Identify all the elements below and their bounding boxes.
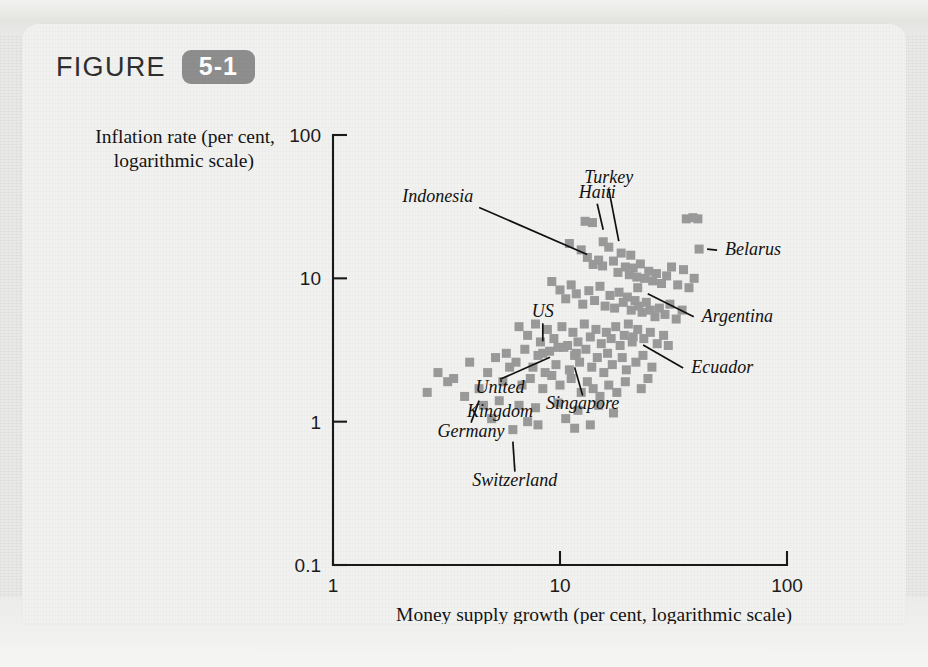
data-point [601, 302, 610, 311]
data-point [515, 322, 524, 331]
data-point [465, 358, 474, 367]
data-point [565, 365, 574, 374]
data-point [621, 377, 630, 386]
data-point [597, 339, 606, 348]
country-label-germany: Germany [438, 421, 505, 441]
data-point [646, 328, 655, 337]
scatter-plot: 1001010.1110100 IndonesiaHaitiTurkeyBela… [22, 24, 906, 624]
data-point [615, 288, 624, 297]
data-point [633, 325, 642, 334]
data-point [595, 282, 604, 291]
data-point [575, 358, 584, 367]
data-point [660, 310, 669, 319]
data-point [621, 262, 630, 271]
leader-line-switzerland [513, 442, 515, 472]
data-point [567, 280, 576, 289]
data-point [567, 374, 576, 383]
data-point [593, 353, 602, 362]
figure-panel: FIGURE 5-1 1001010.1110100 IndonesiaHait… [22, 24, 906, 624]
data-point [664, 341, 673, 350]
leader-line-indonesia [479, 207, 587, 254]
data-point [502, 349, 511, 358]
data-point [652, 269, 661, 278]
data-point [637, 384, 646, 393]
x-tick-label-1: 1 [328, 575, 339, 596]
data-point [650, 312, 659, 321]
data-point [628, 337, 637, 346]
country-label-switzerland: Switzerland [472, 470, 558, 490]
data-point [607, 334, 616, 343]
country-label-united-kingdom: United [476, 377, 526, 397]
data-point [617, 249, 626, 258]
country-label-turkey: Turkey [584, 167, 633, 187]
data-point [632, 273, 641, 282]
country-label-ecuador: Ecuador [690, 357, 754, 377]
data-point [679, 265, 688, 274]
data-point [618, 353, 627, 362]
data-point [433, 368, 442, 377]
data-point [695, 245, 704, 254]
data-point [620, 331, 629, 340]
data-point [545, 347, 554, 356]
data-point [483, 368, 492, 377]
data-point [491, 353, 500, 362]
data-point [505, 363, 514, 372]
data-point [642, 298, 651, 307]
data-point [604, 381, 613, 390]
data-point [543, 325, 552, 334]
country-label-singapore: Singapore [546, 393, 619, 413]
data-point [551, 360, 560, 369]
data-point [605, 291, 614, 300]
data-point [547, 371, 556, 380]
data-point [508, 425, 517, 434]
data-point [633, 283, 642, 292]
data-point [623, 293, 632, 302]
data-point [638, 351, 647, 360]
x-tick-label-100: 100 [771, 575, 803, 596]
y-tick-label-0.1: 0.1 [295, 555, 321, 576]
data-point [603, 349, 612, 358]
data-point [591, 325, 600, 334]
country-label-argentina: Argentina [701, 306, 773, 326]
data-point [638, 308, 647, 317]
data-point [673, 280, 682, 289]
x-tick-label-10: 10 [549, 575, 570, 596]
data-point [534, 351, 543, 360]
data-point [636, 259, 645, 268]
data-point [443, 377, 452, 386]
country-label-indonesia: Indonesia [401, 186, 473, 206]
y-tick-label-100: 100 [289, 125, 321, 146]
data-point [659, 331, 668, 340]
data-point [557, 322, 566, 331]
data-point [586, 420, 595, 429]
data-point [611, 322, 620, 331]
data-point [608, 360, 617, 369]
data-point [589, 384, 598, 393]
data-point [572, 349, 581, 358]
data-point [578, 300, 587, 309]
data-point [538, 384, 547, 393]
data-point [549, 334, 558, 343]
data-point [570, 424, 579, 433]
data-point [520, 345, 529, 354]
data-point [588, 218, 597, 227]
data-point [590, 296, 599, 305]
chart-svg: 1001010.1110100 IndonesiaHaitiTurkeyBela… [22, 24, 906, 624]
data-point [604, 243, 613, 252]
country-label-belarus: Belarus [725, 239, 781, 259]
data-point [526, 374, 535, 383]
x-axis-title: Money supply growth (per cent, logarithm… [396, 604, 792, 624]
data-point [609, 257, 618, 266]
data-point [460, 392, 469, 401]
leader-line-haiti [597, 204, 603, 230]
data-point [598, 261, 607, 270]
data-point [573, 337, 582, 346]
country-labels-group: IndonesiaHaitiTurkeyBelarusArgentinaEcua… [401, 167, 781, 489]
data-point [559, 343, 568, 352]
data-point [644, 267, 653, 276]
leader-line-belarus [707, 249, 717, 250]
data-point [561, 414, 570, 423]
data-point [556, 381, 565, 390]
data-point [616, 341, 625, 350]
data-point [662, 271, 671, 280]
